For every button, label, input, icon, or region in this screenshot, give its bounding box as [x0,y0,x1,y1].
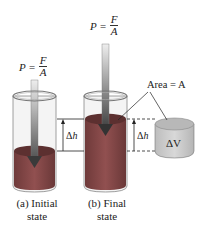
h-variable: h [143,130,148,141]
force-arrow-shaft-a [31,80,38,158]
area-label: Area = A [147,79,186,91]
caption-b-line2: state [78,210,136,223]
formula-b-fraction: F A [110,14,119,37]
caption-a-line1: (a) Initial [8,197,66,210]
formula-a-denominator: A [40,67,47,78]
formula-a-fraction: F A [39,55,48,78]
pressure-formula-b: P = F A [90,14,118,37]
cylinder-initial-state [13,80,56,192]
formula-b-lhs: P = [90,20,107,32]
delta-v-label: ΔV [166,137,181,149]
caption-initial-state: (a) Initial state [8,197,66,223]
delta-h-label-left: Δh [66,130,77,141]
h-variable: h [72,130,77,141]
caption-final-state: (b) Final state [78,197,136,223]
force-arrow-shaft-b [102,44,109,126]
caption-b-line1: (b) Final [78,197,136,210]
delta-v-top-area [155,118,194,130]
delta-h-label-right: Δh [137,130,148,141]
caption-a-line2: state [8,210,66,223]
formula-a-lhs: P = [19,61,36,73]
formula-b-denominator: A [111,26,118,37]
pressure-formula-a: P = F A [19,55,47,78]
